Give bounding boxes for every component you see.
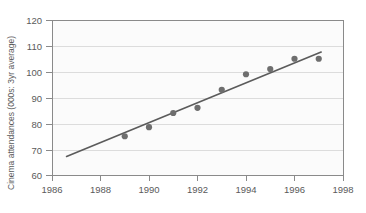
chart-figure: 120 110 100 90 80 70 60 1986 1988 1990 1… (0, 0, 366, 213)
data-point (122, 133, 128, 139)
x-tick-label: 1998 (332, 184, 353, 195)
data-point (170, 110, 176, 116)
data-point (291, 56, 297, 62)
y-tick-label: 90 (31, 93, 42, 104)
y-tick-label: 100 (26, 67, 42, 78)
data-point (267, 66, 273, 72)
plot-area-background (52, 20, 343, 175)
data-point (194, 105, 200, 111)
y-tick-label: 60 (31, 170, 42, 181)
x-tick-label: 1996 (284, 184, 305, 195)
x-axis-ticks (52, 175, 343, 181)
y-tick-label: 80 (31, 119, 42, 130)
x-tick-label: 1986 (41, 184, 62, 195)
data-point (219, 87, 225, 93)
y-tick-label: 70 (31, 145, 42, 156)
y-axis-tick-labels: 120 110 100 90 80 70 60 (26, 15, 42, 181)
scatter-chart-canvas: 120 110 100 90 80 70 60 1986 1988 1990 1… (0, 0, 366, 213)
y-tick-label: 120 (26, 15, 42, 26)
y-axis-ticks (46, 20, 52, 175)
data-point (146, 124, 152, 130)
y-tick-label: 110 (27, 41, 42, 52)
x-tick-label: 1992 (187, 184, 208, 195)
x-tick-label: 1994 (235, 184, 256, 195)
y-axis-title: Cinema attendances (000s: 3yr average) (6, 36, 16, 190)
data-point (316, 56, 322, 62)
data-point (243, 71, 249, 77)
x-axis-tick-labels: 1986 1988 1990 1992 1994 1996 1998 (41, 184, 353, 195)
x-tick-label: 1988 (90, 184, 111, 195)
x-tick-label: 1990 (138, 184, 159, 195)
